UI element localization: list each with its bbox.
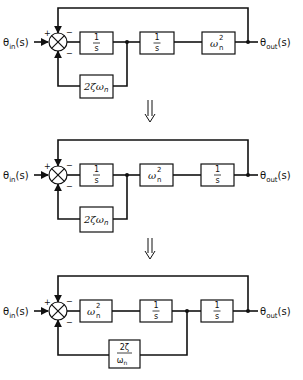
minus-sign-bottom: − <box>66 182 73 191</box>
summing-junction <box>49 302 67 320</box>
svg-text:s: s <box>215 312 219 321</box>
svg-text:ω: ω <box>148 170 156 181</box>
input-label: θin(s) <box>3 37 29 51</box>
svg-text:2ζ: 2ζ <box>120 343 129 352</box>
svg-text:1: 1 <box>215 165 220 174</box>
output-label: θout(s) <box>260 37 291 51</box>
svg-text:s: s <box>94 44 98 53</box>
minus-sign-top: − <box>66 297 73 306</box>
inner-feedback-path <box>113 42 127 86</box>
plus-sign: + <box>44 162 51 171</box>
block-diagram-figure: θin(s) + − − 1 s 1 s ω 2 n θout(s) <box>0 0 303 380</box>
svg-text:1: 1 <box>214 301 219 310</box>
svg-text:s: s <box>154 312 158 321</box>
minus-sign-top: − <box>66 161 73 170</box>
summing-junction <box>49 33 67 51</box>
inner-feedback-path <box>113 175 127 219</box>
transform-arrow <box>145 100 155 122</box>
diagram-2: θin(s) + − − 1 s ω 2 n 1 s θout(s) 2ζωn <box>3 140 291 232</box>
diagram-3: θin(s) + − − ω 2 n 1 s 1 s θout(s) 2ζ <box>3 276 291 368</box>
diagram-1: θin(s) + − − 1 s 1 s ω 2 n θout(s) <box>3 8 291 98</box>
svg-text:1: 1 <box>154 33 159 42</box>
block-label: ω <box>210 38 218 49</box>
svg-text:n: n <box>219 44 223 52</box>
svg-text:s: s <box>94 176 98 185</box>
input-label: θin(s) <box>3 306 29 320</box>
svg-text:1: 1 <box>94 33 99 42</box>
svg-text:s: s <box>155 44 159 53</box>
output-label: θout(s) <box>260 306 291 320</box>
svg-text:s: s <box>215 176 219 185</box>
svg-text:n: n <box>96 312 100 320</box>
plus-sign: + <box>44 29 51 38</box>
minus-sign-top: − <box>66 28 73 37</box>
svg-text:2: 2 <box>219 34 223 42</box>
svg-text:1: 1 <box>153 301 158 310</box>
output-label: θout(s) <box>260 170 291 184</box>
svg-text:ω: ω <box>87 306 95 317</box>
svg-text:2: 2 <box>157 166 161 174</box>
plus-sign: + <box>44 298 51 307</box>
minus-sign-bottom: − <box>66 49 73 58</box>
svg-text:n: n <box>157 176 161 184</box>
svg-text:2: 2 <box>96 302 100 310</box>
summing-junction <box>49 166 67 184</box>
svg-text:1: 1 <box>94 165 99 174</box>
transform-arrow <box>145 238 155 259</box>
input-label: θin(s) <box>3 170 29 184</box>
minus-sign-bottom: − <box>66 318 73 327</box>
